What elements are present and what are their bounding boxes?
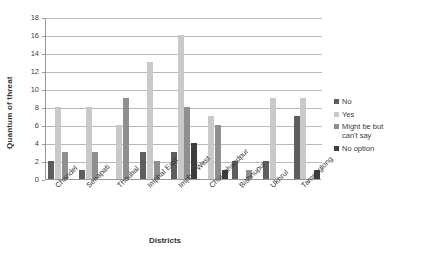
legend-item: Might be but can't say [334, 123, 424, 140]
bar [147, 62, 153, 179]
legend-swatch-icon [334, 99, 339, 104]
legend-swatch-icon [334, 124, 339, 129]
y-axis-tick-label: 0 [13, 176, 39, 184]
bar [270, 98, 276, 179]
legend-swatch-icon [334, 146, 339, 151]
bar-chart: Quantum of threat 024681012141618 Chande… [0, 0, 426, 258]
chart-legend: NoYesMight be but can't sayNo option [334, 98, 424, 157]
y-axis-tick-label: 8 [13, 104, 39, 112]
y-axis-tick-label: 10 [13, 86, 39, 94]
bar [208, 116, 214, 179]
x-axis-title: Districts [0, 236, 330, 245]
bar [294, 116, 300, 179]
bar [55, 107, 61, 179]
bar-group [263, 17, 289, 179]
bar-group [48, 17, 74, 179]
bar [116, 125, 122, 179]
y-axis-tick-label: 16 [13, 32, 39, 40]
y-axis-tick-label: 12 [13, 68, 39, 76]
legend-item: No [334, 98, 424, 107]
bar [48, 161, 54, 179]
legend-label: No [342, 98, 352, 107]
bar [300, 98, 306, 179]
y-axis-tick-label: 6 [13, 122, 39, 130]
bar-group [110, 17, 136, 179]
y-axis-tick-label: 2 [13, 158, 39, 166]
bar [140, 152, 146, 179]
bar [184, 107, 190, 179]
legend-item: Yes [334, 111, 424, 120]
legend-label: Might be but can't say [342, 123, 383, 140]
bar [123, 98, 129, 179]
y-axis-tick-label: 4 [13, 140, 39, 148]
y-axis-tick-label: 18 [13, 14, 39, 22]
bar [86, 107, 92, 179]
legend-item: No option [334, 145, 424, 154]
bar-group [140, 17, 166, 179]
y-axis-tick [42, 180, 45, 181]
legend-label: No option [342, 145, 374, 154]
plot-area [45, 18, 321, 180]
y-axis-tick-label: 14 [13, 50, 39, 58]
bar-group [294, 17, 320, 179]
legend-swatch-icon [334, 112, 339, 117]
bar-group [79, 17, 105, 179]
bar-group [171, 17, 197, 179]
bar [79, 170, 85, 179]
legend-label: Yes [342, 111, 354, 120]
bar [178, 35, 184, 179]
